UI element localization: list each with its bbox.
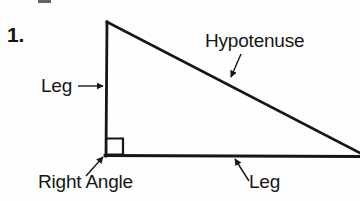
item-number-label: 1. xyxy=(7,24,24,45)
label-hypotenuse: Hypotenuse xyxy=(205,31,304,50)
right-angle-square-marker xyxy=(107,139,123,155)
leader-line-hypotenuse xyxy=(231,54,241,77)
vertical-leg-segment xyxy=(106,22,107,156)
label-leg-vertical: Leg xyxy=(41,76,72,95)
right-triangle-figure: 1. Leg Hypotenuse Right Angle Leg xyxy=(0,0,360,201)
leader-line-leg-horizontal xyxy=(235,159,249,181)
horizontal-leg-segment xyxy=(105,156,360,157)
label-right-angle: Right Angle xyxy=(38,172,133,191)
label-leg-horizontal: Leg xyxy=(249,172,280,191)
